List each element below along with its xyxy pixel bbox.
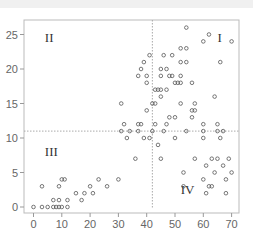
data-point [159, 157, 163, 161]
data-point [83, 191, 87, 195]
data-point [165, 67, 169, 71]
data-point [190, 81, 194, 85]
data-point [224, 178, 228, 182]
data-point [170, 53, 174, 57]
data-point [179, 47, 183, 51]
data-point [193, 102, 197, 106]
data-point [230, 171, 234, 175]
x-tick-label: 50 [169, 218, 181, 230]
y-tick-label: 15 [6, 98, 18, 110]
data-point [88, 185, 92, 189]
data-point [202, 40, 206, 44]
x-tick-label: 0 [30, 218, 36, 230]
data-point [173, 116, 177, 120]
data-point [202, 122, 206, 126]
data-point [179, 102, 183, 106]
x-axis: 010203040506070 [30, 213, 237, 230]
data-point [179, 60, 183, 64]
data-point [210, 157, 214, 161]
data-point [153, 122, 157, 126]
quadrant-label: III [45, 144, 58, 159]
data-point [32, 205, 36, 209]
data-point [213, 95, 217, 99]
data-point [230, 40, 234, 44]
data-point [168, 116, 172, 120]
data-point [66, 205, 70, 209]
data-point [227, 157, 231, 161]
data-point [185, 60, 189, 64]
data-point [148, 53, 152, 57]
data-point [159, 95, 163, 99]
x-tick-label: 70 [225, 218, 237, 230]
data-point [224, 191, 228, 195]
data-point [216, 157, 220, 161]
data-point [182, 171, 186, 175]
data-point [117, 178, 121, 182]
data-point [52, 198, 56, 202]
data-point [142, 136, 146, 140]
data-point [66, 198, 70, 202]
x-tick-label: 20 [84, 218, 96, 230]
x-tick-label: 60 [197, 218, 209, 230]
data-point [46, 205, 50, 209]
data-point [74, 191, 78, 195]
data-point [134, 157, 138, 161]
data-point [156, 143, 160, 147]
data-point [190, 116, 194, 120]
data-point [145, 109, 149, 113]
x-tick-label: 40 [141, 218, 153, 230]
data-point [105, 185, 109, 189]
data-point [40, 205, 44, 209]
data-point [202, 136, 206, 140]
data-points [32, 26, 234, 209]
data-point [165, 88, 169, 92]
data-point [57, 198, 61, 202]
data-point [57, 185, 61, 189]
y-tick-label: 0 [12, 201, 18, 213]
data-point [221, 164, 225, 168]
data-point [139, 67, 143, 71]
data-point [185, 26, 189, 30]
data-point [207, 33, 211, 37]
data-point [145, 74, 149, 78]
data-point [119, 102, 123, 106]
data-point [204, 191, 208, 195]
y-tick-label: 25 [6, 29, 18, 41]
data-point [122, 122, 126, 126]
y-tick-label: 20 [6, 63, 18, 75]
quadrant-labels: IIIIIIIV [45, 30, 222, 197]
data-point [162, 53, 166, 57]
data-point [148, 136, 152, 140]
y-tick-label: 5 [12, 167, 18, 179]
plot-frame [24, 20, 239, 213]
data-point [165, 122, 169, 126]
data-point [202, 178, 206, 182]
x-tick-label: 10 [56, 218, 68, 230]
data-point [179, 74, 183, 78]
y-axis: 0510152025 [6, 29, 24, 214]
quadrant-label: IV [181, 182, 195, 197]
data-point [185, 47, 189, 51]
quadrant-label: I [217, 30, 221, 45]
data-point [213, 171, 217, 175]
data-point [145, 81, 149, 85]
data-point [40, 185, 44, 189]
data-point [218, 136, 222, 140]
scatter-chart: 0510152025 010203040506070 IIIIIIIV [0, 0, 253, 250]
data-point [204, 164, 208, 168]
data-point [125, 136, 129, 140]
quadrant-label: II [45, 30, 54, 45]
data-point [136, 74, 140, 78]
data-point [159, 67, 163, 71]
data-point [173, 136, 177, 140]
data-point [216, 122, 220, 126]
data-point [218, 60, 222, 64]
data-point [91, 191, 95, 195]
data-point [97, 178, 101, 182]
y-tick-label: 10 [6, 132, 18, 144]
data-point [80, 198, 84, 202]
data-point [193, 157, 197, 161]
reference-lines [24, 20, 239, 208]
x-tick-label: 30 [112, 218, 124, 230]
data-point [159, 74, 163, 78]
